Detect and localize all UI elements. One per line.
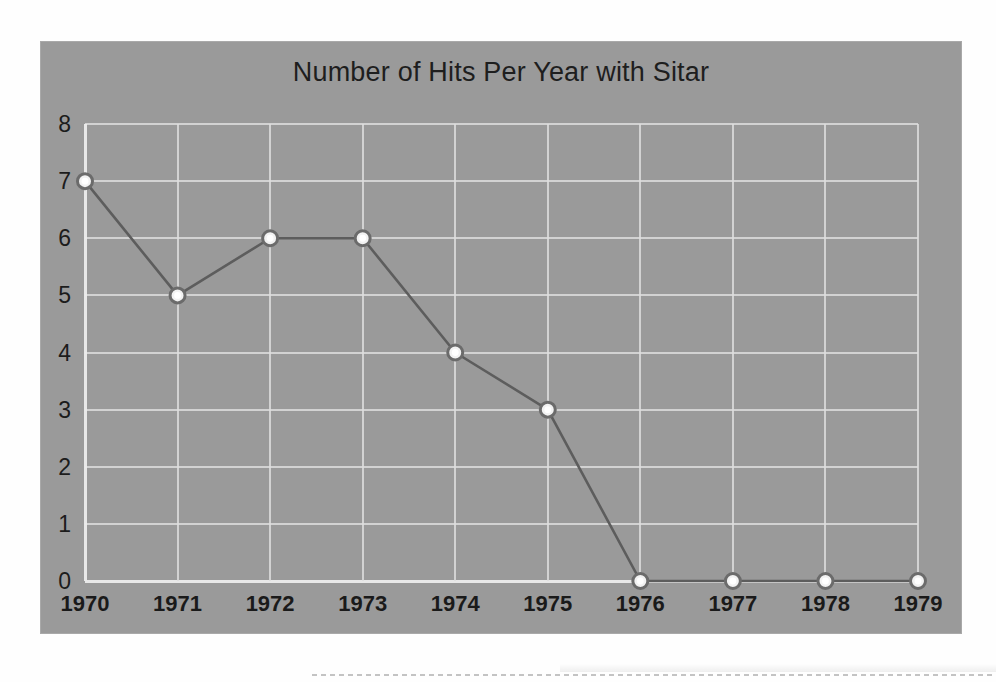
data-point-highlight-1972 <box>267 235 274 242</box>
x-tick-label-1973: 1973 <box>338 591 387 617</box>
data-point-highlight-1971 <box>174 292 181 299</box>
y-tick-label-1: 1 <box>58 510 71 537</box>
data-point-highlight-1977 <box>729 578 736 585</box>
y-tick-label-2: 2 <box>58 453 71 480</box>
scan-dashed-edge <box>312 674 996 676</box>
x-tick-label-1979: 1979 <box>894 591 943 617</box>
y-tick-label-4: 4 <box>58 339 71 366</box>
y-tick-label-7: 7 <box>58 168 71 195</box>
series-graphic <box>85 124 918 581</box>
x-tick-label-1975: 1975 <box>523 591 572 617</box>
y-tick-label-6: 6 <box>58 225 71 252</box>
plot-area: 012345678 197019711972197319741975197619… <box>85 124 918 581</box>
x-tick-label-1976: 1976 <box>616 591 665 617</box>
y-tick-label-3: 3 <box>58 396 71 423</box>
x-tick-label-1970: 1970 <box>61 591 110 617</box>
x-tick-label-1972: 1972 <box>246 591 295 617</box>
y-tick-label-8: 8 <box>58 111 71 138</box>
scanned-page: Number of Hits Per Year with Sitar 01234… <box>0 0 996 682</box>
x-tick-label-1971: 1971 <box>153 591 202 617</box>
chart-container: Number of Hits Per Year with Sitar 01234… <box>40 41 962 634</box>
data-point-highlight-1975 <box>544 406 551 413</box>
data-point-highlight-1978 <box>822 578 829 585</box>
data-point-highlight-1970 <box>82 178 89 185</box>
x-tick-label-1978: 1978 <box>801 591 850 617</box>
data-point-highlight-1976 <box>637 578 644 585</box>
data-point-highlight-1974 <box>452 349 459 356</box>
data-point-highlight-1973 <box>359 235 366 242</box>
chart-title: Number of Hits Per Year with Sitar <box>40 57 962 88</box>
series-line-hits <box>85 181 918 581</box>
scan-shadow <box>560 664 996 672</box>
x-tick-label-1974: 1974 <box>431 591 480 617</box>
data-point-highlight-1979 <box>915 578 922 585</box>
y-tick-label-5: 5 <box>58 282 71 309</box>
x-tick-label-1977: 1977 <box>708 591 757 617</box>
